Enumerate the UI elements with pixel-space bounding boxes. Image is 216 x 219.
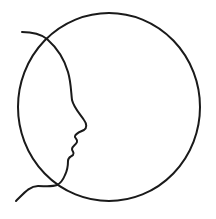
line-art-svg xyxy=(0,0,216,219)
illustration: Face profile in circle xyxy=(0,0,216,219)
